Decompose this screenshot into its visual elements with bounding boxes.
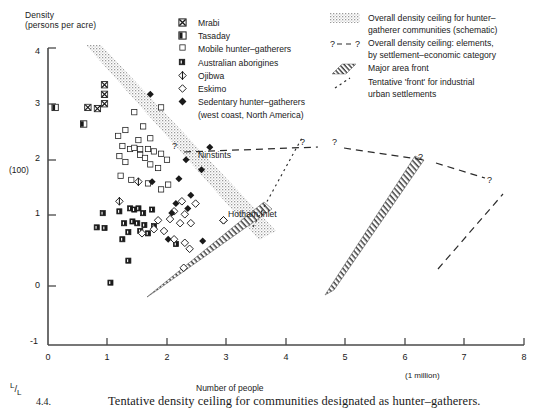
data-point — [94, 225, 99, 230]
legend-band-major-area-front-line1: Major area front — [368, 63, 429, 73]
data-point — [102, 225, 107, 230]
hatched-band-icon — [330, 63, 364, 76]
data-point — [160, 227, 168, 235]
data-point — [108, 280, 113, 285]
diamond-lined-icon — [178, 71, 192, 82]
data-point — [117, 209, 122, 214]
legend-band-major-area-front: Major area front — [330, 63, 497, 75]
data-point — [178, 198, 186, 206]
caption-text: Tentative density ceiling for communitie… — [108, 394, 481, 409]
data-point — [52, 104, 58, 110]
data-point — [130, 219, 135, 224]
data-point — [181, 239, 189, 247]
data-point — [181, 211, 189, 219]
major-area-front-right — [325, 156, 424, 295]
data-point — [135, 221, 140, 226]
legend-item-australian-aborigines: Australian aborigines — [178, 57, 305, 70]
legend-label-australian-aborigines: Australian aborigines — [198, 58, 278, 68]
legend-band-ceiling-elements-line2: by settlement–economic category — [330, 50, 497, 62]
data-point — [155, 165, 160, 170]
data-point — [85, 104, 91, 110]
data-point — [176, 219, 184, 227]
data-point — [136, 206, 141, 211]
square-open-icon — [178, 44, 192, 55]
data-point — [122, 221, 127, 226]
data-point — [101, 91, 107, 97]
figure-panel: Density (persons per acre) (100) Number … — [0, 0, 544, 413]
data-point — [94, 105, 100, 111]
data-point — [166, 182, 171, 187]
caption-number: 4.4. — [36, 396, 51, 407]
square-filled-small-icon — [178, 58, 192, 69]
legend-band-industrial-front-line2: urban settlements — [330, 89, 497, 101]
data-point — [126, 230, 131, 235]
annotation-hotham-inlet: Hotham Inlet — [228, 209, 277, 219]
legend-band-density-ceiling: Overall density ceiling for hunter– — [330, 13, 497, 25]
legend-item-mobile-hunter-gatherers: Mobile hunter–gatherers — [178, 43, 305, 56]
data-point — [132, 110, 137, 115]
data-point — [126, 258, 131, 263]
square-crossed-icon — [178, 18, 192, 29]
data-point — [141, 211, 146, 216]
data-point — [158, 187, 163, 192]
legend-band-density-ceiling-line1: Overall density ceiling for hunter– — [368, 13, 496, 23]
legend-label-tasaday: Tasaday — [198, 31, 230, 41]
data-point — [123, 127, 128, 132]
data-point — [101, 82, 107, 88]
data-point — [118, 173, 123, 178]
data-point — [141, 124, 146, 129]
data-point — [116, 133, 121, 138]
legend-label-eskimo: Eskimo — [198, 84, 226, 94]
marker-legend: Mrabi Tasaday Mobile hunter–gatherers Au… — [178, 17, 305, 123]
legend-sublabel-sedentary: (west coast, North America) — [178, 109, 305, 122]
data-point — [150, 207, 155, 212]
data-point-annotated — [220, 217, 228, 225]
data-point — [148, 162, 153, 167]
data-point — [132, 145, 137, 150]
data-point — [151, 149, 156, 154]
data-point — [187, 219, 195, 227]
industrial-front-dashed-right — [438, 194, 503, 269]
band-legend: Overall density ceiling for hunter– gath… — [330, 13, 497, 101]
data-point — [101, 101, 107, 107]
data-point — [123, 159, 128, 164]
data-point — [158, 105, 163, 110]
data-point — [135, 177, 143, 186]
question-mark-1: ? — [172, 141, 177, 151]
legend-band-ceiling-elements: ? ? Overall density ceiling: elements, — [330, 38, 497, 50]
data-point — [186, 245, 194, 253]
dashed-question-icon: ? ? — [330, 38, 364, 51]
data-point — [145, 146, 150, 151]
data-point — [117, 153, 122, 158]
data-point — [164, 157, 169, 162]
data-point — [148, 136, 153, 141]
data-point — [199, 238, 206, 245]
data-point — [187, 192, 194, 199]
annotation-ninstints: Ninstints — [198, 150, 231, 160]
legend-band-industrial-front: Tentative 'front' for industrial — [330, 77, 497, 89]
figure-caption: 4.4. Tentative density ceiling for commu… — [0, 394, 544, 413]
data-point — [138, 146, 143, 151]
diamond-filled-icon — [178, 97, 192, 108]
legend-label-sedentary-hunter-gatherers: Sedentary hunter–gatherers — [198, 97, 305, 107]
data-point — [136, 137, 141, 142]
legend-item-eskimo: Eskimo — [178, 83, 305, 96]
data-point — [142, 155, 147, 160]
svg-text:?: ? — [355, 39, 360, 49]
data-point — [192, 200, 200, 208]
diamond-open-icon — [178, 84, 192, 95]
legend-item-tasaday: Tasaday — [178, 30, 305, 43]
legend-band-ceiling-elements-line1: Overall density ceiling: elements, — [368, 38, 494, 48]
legend-label-mrabi: Mrabi — [198, 18, 220, 28]
legend-label-mobile-hunter-gatherers: Mobile hunter–gatherers — [198, 44, 291, 54]
question-mark-3: ? — [332, 137, 337, 147]
svg-text:?: ? — [330, 39, 335, 49]
data-point — [120, 143, 125, 148]
data-point — [129, 177, 134, 182]
data-point — [100, 211, 105, 216]
data-point — [158, 151, 163, 156]
data-point — [175, 175, 182, 182]
square-half-icon — [178, 31, 192, 42]
stipple-band-icon — [330, 13, 364, 26]
data-point — [165, 236, 172, 243]
